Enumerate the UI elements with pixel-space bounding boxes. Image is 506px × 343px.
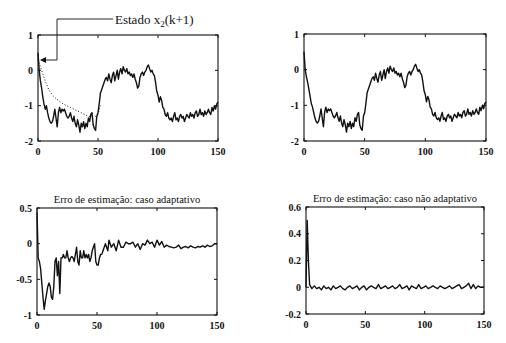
y-tick-label: 1 [28,30,33,41]
x-tick-label: 150 [477,319,492,330]
axes-frame [304,34,486,141]
series-erro-não-adaptativo [306,220,484,290]
annotation-estado-x2: Estado x2(k+1) [40,12,194,63]
y-tick-label: -0.2 [285,309,301,320]
y-tick-label: 0.2 [289,255,302,266]
x-tick-label: 0 [35,320,40,331]
x-tick-label: 50 [360,146,370,157]
axes-frame [37,208,217,315]
x-tick-label: 150 [211,146,226,157]
y-tick-label: -1 [291,100,299,111]
x-tick-label: 100 [150,320,165,331]
y-tick-label: -2 [291,136,299,147]
y-tick-label: 0 [28,65,33,76]
title-bottom-right: Erro de estimação: caso não adaptativo [313,193,477,204]
axes-bottom-left: 0501001500.50-0.5-1 [16,203,224,332]
x-tick-label: 100 [151,146,166,157]
x-tick-label: 50 [92,320,102,331]
y-tick-label: 0.5 [20,203,33,214]
x-tick-label: 150 [210,320,225,331]
arrowhead-icon [40,57,46,63]
y-tick-label: -2 [25,136,33,147]
title-bottom-left: Erro de estimação: caso adaptativo [54,194,200,205]
y-tick-label: -0.5 [16,274,32,285]
x-tick-label: 150 [479,146,494,157]
axes-frame [306,207,484,314]
axes-top-right: 05010015010-1-2 [291,29,494,158]
figure: Estado x2(k+1) 05010015010-1-2 050100150… [0,0,506,343]
axes-frame [38,35,218,141]
y-tick-label: -1 [24,310,32,321]
y-tick-label: 0 [294,64,299,75]
series-estado-real [38,53,218,133]
series-erro-adaptativo [37,212,217,310]
annotation-leader-line [45,19,113,60]
annotation-text: Estado x2(k+1) [115,12,194,29]
y-tick-label: 0 [27,238,32,249]
axes-bottom-right: 0501001500.60.40.20-0.2 [285,202,491,331]
y-tick-label: 0.4 [289,228,302,239]
axes-top-left: 05010015010-1-2 [25,30,226,158]
x-tick-label: 0 [302,146,307,157]
x-tick-label: 50 [93,146,103,157]
x-tick-label: 100 [418,146,433,157]
x-tick-label: 0 [304,319,309,330]
x-tick-label: 100 [417,319,432,330]
y-tick-label: 0.6 [289,202,302,213]
series-estado-real [304,52,486,132]
y-tick-label: 1 [294,29,299,40]
x-tick-label: 50 [360,319,370,330]
y-tick-label: -1 [25,100,33,111]
x-tick-label: 0 [36,146,41,157]
y-tick-label: 0 [296,282,301,293]
